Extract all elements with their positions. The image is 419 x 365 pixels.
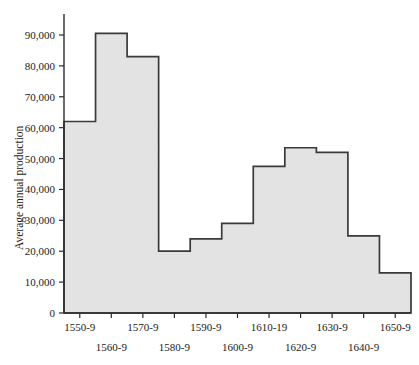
y-tick-label: 20,000 xyxy=(25,245,56,257)
histogram-average-annual-production: Average annual production 010,00020,0003… xyxy=(0,0,419,365)
x-tick-label-bottom: 1560-9 xyxy=(96,341,128,353)
y-tick-label: 40,000 xyxy=(25,183,56,195)
y-tick-label: 10,000 xyxy=(25,276,56,288)
x-tick-label-top: 1610-19 xyxy=(251,321,288,333)
x-tick-label-bottom: 1640-9 xyxy=(348,341,380,353)
y-tick-label: 50,000 xyxy=(25,153,56,165)
y-tick-label: 60,000 xyxy=(25,122,56,134)
x-tick-label-bottom: 1580-9 xyxy=(159,341,191,353)
x-tick-label-top: 1550-9 xyxy=(64,321,96,333)
y-tick-label: 0 xyxy=(50,307,56,319)
x-tick-label-bottom: 1600-9 xyxy=(222,341,254,353)
x-tick-label-top: 1570-9 xyxy=(127,321,159,333)
y-tick-label: 90,000 xyxy=(25,29,56,41)
chart-container: Average annual production 010,00020,0003… xyxy=(0,0,419,365)
y-tick-label: 30,000 xyxy=(25,214,56,226)
x-tick-label-bottom: 1620-9 xyxy=(285,341,317,353)
y-tick-label: 80,000 xyxy=(25,60,56,72)
x-tick-label-top: 1630-9 xyxy=(317,321,349,333)
x-tick-label-top: 1590-9 xyxy=(190,321,222,333)
x-tick-label-top: 1650-9 xyxy=(380,321,412,333)
y-tick-label: 70,000 xyxy=(25,91,56,103)
